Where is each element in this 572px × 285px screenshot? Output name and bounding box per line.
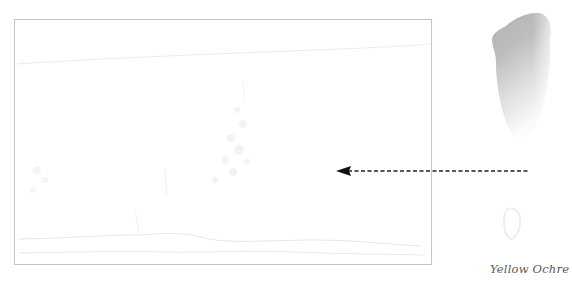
swatch-label: Yellow Ochre — [490, 262, 569, 276]
faint-paint-drop — [498, 205, 526, 245]
dashed-arrow-left — [334, 163, 530, 179]
pencil-sketch — [15, 20, 433, 266]
yellow-ochre-paint-swatch — [484, 8, 554, 143]
paper-frame — [14, 19, 432, 265]
